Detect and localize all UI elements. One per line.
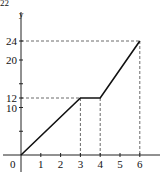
y-tick-label: 20 [6,54,18,66]
x-tick-label: 5 [117,158,123,170]
x-tick-label: 2 [58,158,64,170]
x-tick-label: 1 [38,158,44,170]
x-tick-label: 6 [137,158,143,170]
corner-label: 22 [0,0,9,8]
y-tick-label: 12 [6,92,17,104]
x-tick-label: 4 [97,158,103,170]
y-axis-label: y [19,9,24,19]
axes: y 0 [3,9,160,172]
x-tick-label: 3 [78,158,84,170]
origin-label: 0 [10,158,16,170]
y-tick-label: 24 [6,35,18,47]
line-chart: 22 y 0 12345610122024 [0,0,164,175]
